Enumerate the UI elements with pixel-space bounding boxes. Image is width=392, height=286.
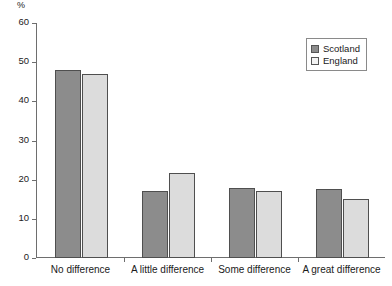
bar-scotland — [229, 188, 255, 259]
legend-swatch-icon — [311, 57, 319, 65]
x-axis-label: Some difference — [211, 264, 298, 276]
y-axis-tick-label: 40 — [18, 95, 29, 105]
y-axis-tick-label: 30 — [18, 135, 29, 145]
bar-england — [82, 74, 108, 258]
bar-england — [256, 191, 282, 258]
bar-group — [211, 23, 298, 258]
y-axis-unit-label: % — [17, 1, 25, 10]
x-axis-tick-mark — [124, 258, 125, 262]
y-axis-tick-mark — [32, 219, 36, 220]
bar-chart: % 0102030405060 No differenceA little di… — [0, 0, 392, 286]
y-axis-tick-mark — [32, 141, 36, 142]
bar-england — [343, 199, 369, 258]
y-axis-tick-label: 10 — [18, 213, 29, 223]
y-axis-tick-mark — [32, 62, 36, 63]
legend: Scotland England — [306, 38, 367, 71]
y-axis-tick-label: 0 — [24, 252, 29, 262]
legend-item: England — [311, 55, 360, 66]
y-axis-tick-label: 50 — [18, 56, 29, 66]
bar-group — [124, 23, 211, 258]
y-axis-tick-mark — [32, 180, 36, 181]
bar-group — [37, 23, 124, 258]
bar-scotland — [142, 191, 168, 258]
bar-scotland — [316, 189, 342, 258]
x-axis-tick-mark — [298, 258, 299, 262]
legend-item-label: Scotland — [323, 44, 360, 54]
bar-england — [169, 173, 195, 258]
x-axis-label: A great difference — [298, 264, 385, 276]
y-axis-tick-mark — [32, 23, 36, 24]
y-axis-tick-mark — [32, 258, 36, 259]
y-axis-tick-label: 60 — [18, 17, 29, 27]
y-axis-tick-label: 20 — [18, 174, 29, 184]
x-axis-tick-mark — [211, 258, 212, 262]
x-axis-label: No difference — [37, 264, 124, 276]
legend-swatch-icon — [311, 45, 319, 53]
y-axis-tick-mark — [32, 101, 36, 102]
x-axis-label: A little difference — [124, 264, 211, 276]
legend-item-label: England — [323, 56, 358, 66]
bar-scotland — [55, 70, 81, 258]
legend-item: Scotland — [311, 43, 360, 54]
